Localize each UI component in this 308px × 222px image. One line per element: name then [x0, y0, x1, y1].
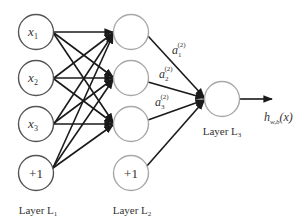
node-output	[205, 82, 240, 117]
node-h1	[114, 15, 149, 50]
layer-1-label: Layer L1	[19, 204, 58, 218]
layer-1: x1 x2 x3 +1 Layer L1	[19, 15, 58, 219]
layer-2-label: Layer L2	[113, 204, 152, 218]
layer-3: Layer L3	[203, 82, 242, 140]
output-hypothesis-label: hw,b(x)	[264, 110, 293, 126]
neural-network-diagram: x1 x2 x3 +1 Layer L1 +1 Layer L2 Layer L…	[0, 0, 308, 222]
node-h3	[114, 107, 149, 142]
node-h2	[114, 61, 149, 96]
activation-a1-label: a1(2)	[172, 41, 186, 59]
activation-a3-label: a3(2)	[155, 93, 169, 111]
layer-3-label: Layer L3	[203, 125, 242, 139]
layer-2: +1 Layer L2	[113, 15, 152, 219]
node-bias-2-label: +1	[124, 166, 138, 181]
activation-a2-label: a2(2)	[159, 65, 173, 83]
node-bias-1-label: +1	[29, 166, 43, 181]
edges-layer1-to-layer2	[52, 32, 113, 170]
activation-labels: a1(2) a2(2) a3(2)	[155, 41, 186, 111]
